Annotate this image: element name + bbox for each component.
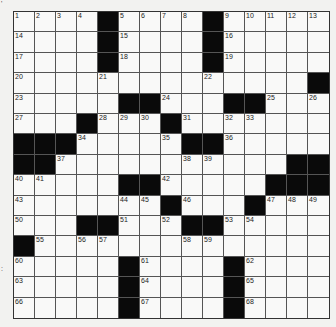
grid-cell[interactable]: [287, 298, 308, 318]
grid-cell[interactable]: 48: [287, 196, 308, 216]
grid-cell[interactable]: 3: [56, 12, 77, 32]
grid-cell[interactable]: [245, 73, 266, 93]
grid-cell[interactable]: [224, 73, 245, 93]
grid-cell[interactable]: 11: [266, 12, 287, 32]
grid-cell[interactable]: [308, 216, 329, 236]
grid-cell[interactable]: [287, 236, 308, 256]
grid-cell[interactable]: 60: [14, 257, 35, 277]
grid-cell[interactable]: 25: [266, 94, 287, 114]
grid-cell[interactable]: [119, 155, 140, 175]
grid-cell[interactable]: [35, 216, 56, 236]
grid-cell[interactable]: [308, 298, 329, 318]
grid-cell[interactable]: [308, 114, 329, 134]
grid-cell[interactable]: [266, 298, 287, 318]
grid-cell[interactable]: [56, 257, 77, 277]
grid-cell[interactable]: 17: [14, 53, 35, 73]
grid-cell[interactable]: [119, 236, 140, 256]
grid-cell[interactable]: 23: [14, 94, 35, 114]
grid-cell[interactable]: [77, 175, 98, 195]
grid-cell[interactable]: [203, 94, 224, 114]
grid-cell[interactable]: [35, 196, 56, 216]
grid-cell[interactable]: [161, 32, 182, 52]
grid-cell[interactable]: [182, 32, 203, 52]
grid-cell[interactable]: 42: [161, 175, 182, 195]
grid-cell[interactable]: [287, 216, 308, 236]
grid-cell[interactable]: 26: [308, 94, 329, 114]
grid-cell[interactable]: 65: [245, 277, 266, 297]
grid-cell[interactable]: [56, 32, 77, 52]
grid-cell[interactable]: 47: [266, 196, 287, 216]
grid-cell[interactable]: [182, 277, 203, 297]
grid-cell[interactable]: 43: [14, 196, 35, 216]
grid-cell[interactable]: [98, 257, 119, 277]
grid-cell[interactable]: 9: [224, 12, 245, 32]
grid-cell[interactable]: [98, 155, 119, 175]
grid-cell[interactable]: 5: [119, 12, 140, 32]
grid-cell[interactable]: [56, 114, 77, 134]
grid-cell[interactable]: [35, 32, 56, 52]
grid-cell[interactable]: [56, 94, 77, 114]
grid-cell[interactable]: [35, 94, 56, 114]
grid-cell[interactable]: [266, 53, 287, 73]
grid-cell[interactable]: [266, 277, 287, 297]
grid-cell[interactable]: [266, 257, 287, 277]
grid-cell[interactable]: [98, 196, 119, 216]
grid-cell[interactable]: [140, 216, 161, 236]
grid-cell[interactable]: 51: [119, 216, 140, 236]
grid-cell[interactable]: [35, 53, 56, 73]
grid-cell[interactable]: [266, 73, 287, 93]
grid-cell[interactable]: 8: [182, 12, 203, 32]
grid-cell[interactable]: 24: [161, 94, 182, 114]
grid-cell[interactable]: [287, 53, 308, 73]
grid-cell[interactable]: [161, 236, 182, 256]
grid-cell[interactable]: [245, 155, 266, 175]
grid-cell[interactable]: 12: [287, 12, 308, 32]
grid-cell[interactable]: 49: [308, 196, 329, 216]
grid-cell[interactable]: 68: [245, 298, 266, 318]
grid-cell[interactable]: [308, 32, 329, 52]
grid-cell[interactable]: 7: [161, 12, 182, 32]
grid-cell[interactable]: 40: [14, 175, 35, 195]
grid-cell[interactable]: [245, 236, 266, 256]
grid-cell[interactable]: 29: [119, 114, 140, 134]
grid-cell[interactable]: [56, 196, 77, 216]
grid-cell[interactable]: [182, 257, 203, 277]
grid-cell[interactable]: 37: [56, 155, 77, 175]
grid-cell[interactable]: [287, 257, 308, 277]
grid-cell[interactable]: [203, 196, 224, 216]
grid-cell[interactable]: 21: [98, 73, 119, 93]
grid-cell[interactable]: [56, 277, 77, 297]
grid-cell[interactable]: [203, 277, 224, 297]
grid-cell[interactable]: [161, 53, 182, 73]
grid-cell[interactable]: [56, 73, 77, 93]
grid-cell[interactable]: [266, 134, 287, 154]
grid-cell[interactable]: [98, 175, 119, 195]
grid-cell[interactable]: [224, 155, 245, 175]
grid-cell[interactable]: 57: [98, 236, 119, 256]
grid-cell[interactable]: [182, 175, 203, 195]
grid-cell[interactable]: [140, 32, 161, 52]
grid-cell[interactable]: [77, 94, 98, 114]
grid-cell[interactable]: [245, 32, 266, 52]
grid-cell[interactable]: [77, 53, 98, 73]
grid-cell[interactable]: [119, 134, 140, 154]
grid-cell[interactable]: 36: [224, 134, 245, 154]
grid-cell[interactable]: [266, 114, 287, 134]
grid-cell[interactable]: [35, 298, 56, 318]
grid-cell[interactable]: 58: [182, 236, 203, 256]
grid-cell[interactable]: [140, 236, 161, 256]
grid-cell[interactable]: [35, 73, 56, 93]
grid-cell[interactable]: [308, 53, 329, 73]
grid-cell[interactable]: [56, 175, 77, 195]
grid-cell[interactable]: [308, 277, 329, 297]
grid-cell[interactable]: [224, 175, 245, 195]
grid-cell[interactable]: [161, 257, 182, 277]
grid-cell[interactable]: 4: [77, 12, 98, 32]
grid-cell[interactable]: 27: [14, 114, 35, 134]
grid-cell[interactable]: [224, 236, 245, 256]
grid-cell[interactable]: [119, 73, 140, 93]
grid-cell[interactable]: [266, 155, 287, 175]
grid-cell[interactable]: 14: [14, 32, 35, 52]
grid-cell[interactable]: [140, 53, 161, 73]
grid-cell[interactable]: [77, 298, 98, 318]
